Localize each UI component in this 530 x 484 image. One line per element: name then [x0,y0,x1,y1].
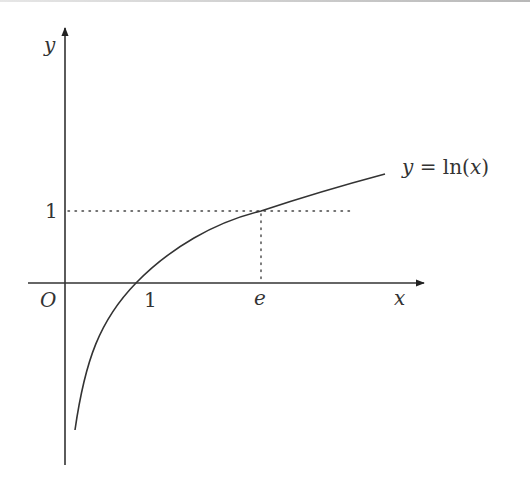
y-tick-1-label: 1 [45,199,58,223]
x-tick-1-label: 1 [144,288,157,312]
curve-label: y = ln(x) [401,155,489,179]
curve-label-arg: x [470,155,481,179]
curve-label-open: ( [462,155,470,179]
curve-label-eq: = [413,155,442,179]
x-tick-e-label: e [254,286,266,310]
origin-label: O [40,288,56,312]
y-axis-label: y [43,33,56,57]
ln-curve [75,174,385,430]
x-axis-label: x [394,286,405,310]
ln-graph: y x O 1 e 1 y = ln(x) [0,0,530,484]
curve-label-close: ) [481,155,489,179]
curve-label-lhs: y [401,155,414,179]
curve-label-fn: ln [443,155,462,179]
